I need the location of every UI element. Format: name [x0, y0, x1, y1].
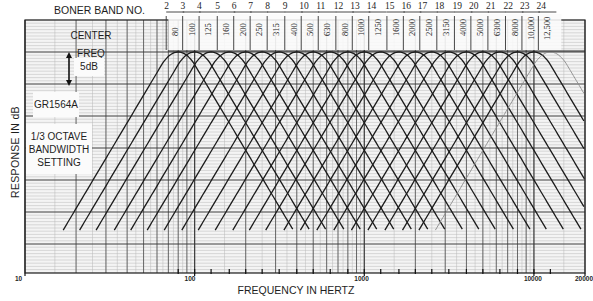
band-number: 5 — [215, 1, 220, 11]
y-axis-label: RESPONSE IN dB — [9, 97, 21, 207]
scale-5db-label: 5dB — [74, 58, 104, 76]
center-frequency: 12,500 — [542, 17, 552, 40]
band-number: 14 — [367, 1, 377, 11]
x-tick-label: 100 — [185, 275, 196, 282]
bandwidth-setting-label: 1/3 OCTAVE BANDWIDTH SETTING — [26, 124, 92, 174]
center-frequency: 100 — [187, 23, 197, 36]
center-frequency: 200 — [238, 23, 248, 36]
band-number-header: BONER BAND NO. — [54, 4, 145, 16]
center-frequency: 4000 — [458, 19, 468, 36]
band-number: 23 — [520, 1, 530, 11]
band-number: 24 — [536, 1, 546, 11]
center-frequency: 6300 — [492, 19, 502, 36]
band-number: 22 — [504, 1, 514, 11]
band-number: 21 — [486, 1, 496, 11]
scale-marker — [66, 52, 72, 84]
band-number: 9 — [283, 1, 288, 11]
band-number: 18 — [435, 1, 445, 11]
band-number: 13 — [350, 1, 360, 11]
instrument-label: GR1564A — [33, 92, 79, 117]
center-frequency: 315 — [271, 23, 281, 36]
center-frequency: 160 — [221, 23, 231, 36]
x-tick-label: 1000 — [354, 275, 368, 282]
center-frequency: 400 — [289, 23, 299, 36]
center-frequency: 800 — [340, 23, 350, 36]
center-frequency: 5000 — [475, 19, 485, 36]
band-number: 15 — [385, 1, 395, 11]
x-tick-label: 10 — [15, 275, 22, 282]
center-frequency: 10,000 — [526, 17, 536, 40]
band-number: 4 — [197, 1, 202, 11]
center-frequency: 80 — [170, 28, 180, 37]
x-tick-label: 20000 — [575, 275, 593, 282]
center-frequency: 1000 — [356, 19, 366, 36]
band-number: 12 — [334, 1, 344, 11]
center-freq-label: CENTER FREQ — [58, 27, 124, 45]
center-frequency: 8000 — [510, 19, 520, 36]
center-frequency: 630 — [322, 23, 332, 36]
band-number: 19 — [452, 1, 462, 11]
x-axis-label: FREQUENCY IN HERTZ — [0, 284, 592, 296]
band-number: 11 — [316, 1, 325, 11]
center-frequency: 1250 — [373, 19, 383, 36]
band-number: 2 — [164, 1, 169, 11]
graph-paper — [25, 20, 585, 273]
center-frequency: 2500 — [424, 19, 434, 36]
band-number: 6 — [232, 1, 237, 11]
center-frequency: 2000 — [407, 19, 417, 36]
band-number: 3 — [181, 1, 186, 11]
band-number: 16 — [401, 1, 411, 11]
band-number: 8 — [265, 1, 270, 11]
band-number: 20 — [469, 1, 479, 11]
x-tick-label: 10000 — [524, 275, 542, 282]
center-frequency: 125 — [203, 23, 213, 36]
band-number: 17 — [418, 1, 428, 11]
center-frequency: 1600 — [391, 19, 401, 36]
band-number: 7 — [248, 1, 253, 11]
band-number: 10 — [299, 1, 309, 11]
center-frequency: 250 — [254, 23, 264, 36]
center-frequency: 500 — [305, 23, 315, 36]
center-frequency: 3150 — [441, 19, 451, 36]
